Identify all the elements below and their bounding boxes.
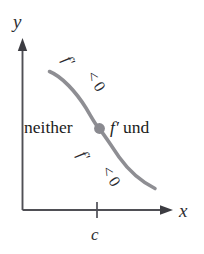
lower-slope-relation: < 0 <box>98 163 124 190</box>
lower-slope-relation-group: < 0 <box>98 163 124 190</box>
upper-slope-relation-group: < 0 <box>83 68 109 95</box>
upper-slope-relation: < 0 <box>83 68 109 95</box>
figure-canvas: y x c f′ < 0 f′ < 0 <box>0 0 204 254</box>
y-axis-arrowhead <box>18 38 27 51</box>
lower-slope-f: f′ <box>74 148 94 165</box>
x-axis-arrowhead <box>160 205 173 214</box>
point-marker-c <box>94 123 105 134</box>
x-axis-label: x <box>178 200 188 221</box>
x-axis-tick-c: c <box>91 202 99 244</box>
lower-slope-label: f′ <box>74 148 94 165</box>
y-axis: y <box>11 11 27 210</box>
upper-slope-label: f′ <box>59 53 79 70</box>
tick-label-c: c <box>91 225 99 244</box>
x-axis: x <box>23 200 189 221</box>
upper-slope-f: f′ <box>59 53 79 70</box>
calculus-figure: y x c f′ < 0 f′ < 0 <box>0 0 204 254</box>
y-axis-label: y <box>11 11 22 32</box>
